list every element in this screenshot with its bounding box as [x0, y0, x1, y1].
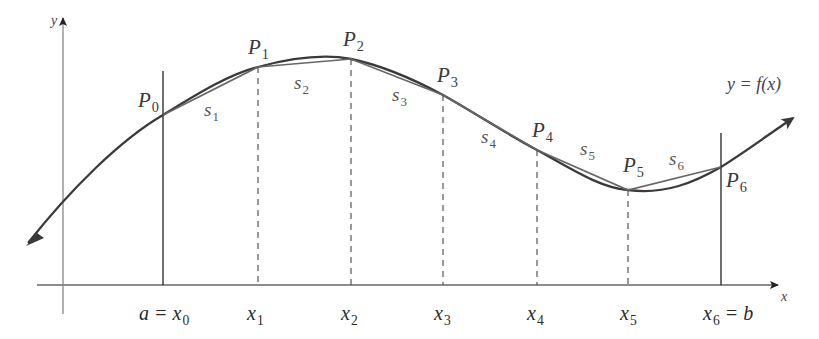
- segment-label-s3: s3: [392, 85, 407, 108]
- x-tick-label-5: x5: [620, 303, 637, 327]
- point-label-p0: P0: [138, 90, 159, 114]
- segment-label-s2: s2: [294, 73, 309, 96]
- segment-label-s5: s5: [580, 139, 595, 162]
- segment-label-s1: s1: [204, 100, 219, 123]
- x-tick-label-3: x3: [434, 303, 451, 327]
- arc-length-diagram: y x y = f(x) P0 P1 P2 P3 P4 P5 P6 s1 s2 …: [0, 0, 819, 339]
- diagram-canvas: [0, 0, 819, 339]
- function-label: y = f(x): [727, 75, 781, 93]
- segment-label-s6: s6: [669, 149, 684, 172]
- y-axis-label: y: [51, 14, 57, 28]
- x-tick-label-6: x6 = b: [703, 303, 753, 327]
- segment-label-s4: s4: [481, 127, 496, 150]
- point-label-p3: P3: [437, 65, 458, 89]
- point-label-p5: P5: [623, 155, 644, 179]
- point-label-p4: P4: [532, 120, 553, 144]
- x-tick-label-2: x2: [341, 303, 358, 327]
- x-tick-label-4: x4: [527, 303, 544, 327]
- point-label-p2: P2: [343, 29, 364, 53]
- x-tick-label-0: a = x0: [139, 303, 189, 327]
- point-label-p6: P6: [726, 170, 747, 194]
- point-label-p1: P1: [248, 37, 269, 61]
- partition-lines: [258, 59, 628, 285]
- x-axis-label: x: [781, 290, 787, 304]
- x-tick-label-1: x1: [247, 303, 264, 327]
